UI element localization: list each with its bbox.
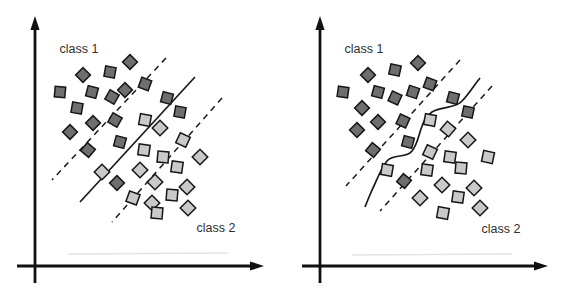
class1-marker bbox=[372, 86, 385, 99]
class2-marker bbox=[180, 200, 196, 216]
class1-marker bbox=[366, 143, 381, 158]
panel-nonlinear-classifier: class 1class 2 bbox=[302, 16, 548, 283]
class1-marker bbox=[161, 92, 174, 105]
class1-marker bbox=[76, 68, 91, 83]
class2-marker bbox=[472, 200, 488, 216]
class1-marker bbox=[63, 125, 78, 140]
class2-marker bbox=[132, 162, 148, 178]
class2-marker bbox=[151, 207, 163, 219]
class2-marker bbox=[440, 121, 455, 136]
class1-marker bbox=[447, 92, 460, 105]
class1-marker bbox=[105, 90, 119, 104]
class2-label: class 2 bbox=[197, 221, 236, 235]
class2-marker bbox=[166, 189, 178, 201]
class1-label: class 1 bbox=[60, 42, 99, 56]
class1-marker bbox=[86, 116, 101, 131]
class1-marker bbox=[138, 77, 151, 90]
class2-marker bbox=[437, 207, 450, 220]
class2-marker bbox=[192, 149, 208, 165]
class1-marker bbox=[397, 174, 412, 189]
class2-marker bbox=[157, 151, 169, 163]
class2-marker bbox=[455, 162, 467, 174]
scan-artifact-line bbox=[352, 254, 512, 255]
x-axis-arrowhead-icon bbox=[250, 261, 264, 270]
class1-label: class 1 bbox=[345, 42, 384, 56]
class2-marker bbox=[94, 164, 110, 180]
y-axis-arrowhead-icon bbox=[30, 16, 39, 30]
class1-marker bbox=[462, 106, 474, 118]
class1-marker bbox=[406, 85, 419, 98]
class1-marker bbox=[337, 86, 349, 98]
class1-marker bbox=[402, 136, 415, 149]
class1-marker bbox=[54, 86, 65, 97]
class2-marker bbox=[481, 150, 494, 163]
svm-diagram: class 1class 2 class 1class 2 bbox=[0, 0, 567, 289]
class1-marker bbox=[371, 115, 386, 130]
class1-marker bbox=[388, 91, 402, 105]
class2-marker bbox=[412, 190, 428, 206]
class1-marker bbox=[361, 68, 376, 83]
class2-marker bbox=[424, 114, 437, 127]
class1-marker bbox=[396, 114, 410, 128]
panel-linear-classifier: class 1class 2 bbox=[17, 16, 264, 283]
class2-marker bbox=[460, 132, 476, 148]
class2-label: class 2 bbox=[482, 222, 521, 236]
class2-marker bbox=[434, 177, 450, 193]
class2-marker bbox=[452, 191, 464, 203]
class2-marker bbox=[179, 179, 195, 195]
class2-marker bbox=[444, 151, 456, 163]
class2-marker bbox=[138, 144, 150, 156]
figure-canvas: class 1class 2 class 1class 2 bbox=[0, 0, 567, 289]
class1-marker bbox=[108, 113, 122, 127]
class1-marker bbox=[411, 56, 426, 71]
class2-marker bbox=[147, 174, 163, 190]
scan-artifact-line bbox=[68, 253, 228, 254]
class1-marker bbox=[389, 64, 401, 76]
class1-marker bbox=[86, 86, 99, 99]
class1-marker bbox=[104, 66, 116, 78]
class2-marker bbox=[466, 180, 482, 196]
class2-marker bbox=[139, 114, 152, 127]
class1-marker bbox=[350, 123, 365, 138]
class1-marker bbox=[355, 101, 370, 116]
class2-marker bbox=[176, 133, 191, 148]
class1-marker bbox=[114, 136, 127, 149]
y-axis-arrowhead-icon bbox=[315, 16, 324, 30]
class2-marker bbox=[152, 120, 168, 136]
class1-marker bbox=[174, 106, 186, 118]
class2-marker bbox=[171, 161, 183, 173]
class2-marker bbox=[423, 145, 438, 160]
class2-marker bbox=[381, 164, 394, 177]
class2-marker bbox=[421, 164, 433, 176]
x-axis-arrowhead-icon bbox=[534, 261, 548, 270]
class1-marker bbox=[71, 102, 83, 114]
class1-marker bbox=[123, 55, 138, 70]
class1-marker bbox=[110, 176, 125, 191]
class1-marker bbox=[81, 143, 96, 158]
